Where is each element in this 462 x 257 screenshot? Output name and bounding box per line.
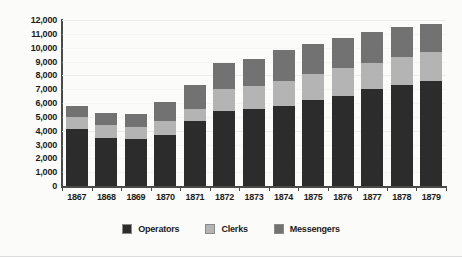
bar-segment-operators[interactable] xyxy=(391,85,413,186)
x-axis-tick xyxy=(269,186,270,191)
legend-item-messengers[interactable]: Messengers xyxy=(274,224,340,234)
x-axis-tick xyxy=(210,186,211,191)
bar-stack[interactable] xyxy=(154,20,176,186)
bar-stack[interactable] xyxy=(243,20,265,186)
bar-segment-operators[interactable] xyxy=(154,135,176,186)
bar-stack[interactable] xyxy=(361,20,383,186)
x-axis-tick-label: 1875 xyxy=(304,192,323,202)
x-axis-tick-label: 1874 xyxy=(274,192,293,202)
y-axis-labels: 01,0002,0003,0004,0005,0006,0007,0008,00… xyxy=(0,0,57,206)
bar-stack[interactable] xyxy=(332,20,354,186)
bar-stack[interactable] xyxy=(184,20,206,186)
bar-segment-clerks[interactable] xyxy=(361,63,383,89)
y-axis-tick-label: 6,000 xyxy=(35,98,57,108)
x-axis-tick-label: 1877 xyxy=(363,192,382,202)
y-axis-tick-label: 3,000 xyxy=(35,140,57,150)
x-axis-tick-label: 1869 xyxy=(126,192,145,202)
x-axis-tick xyxy=(151,186,152,191)
x-axis-tick xyxy=(298,186,299,191)
bar-segment-operators[interactable] xyxy=(125,139,147,186)
chart-container: 01,0002,0003,0004,0005,0006,0007,0008,00… xyxy=(0,0,462,257)
y-axis-tick-label: 2,000 xyxy=(35,153,57,163)
x-axis-tick xyxy=(239,186,240,191)
bar-segment-clerks[interactable] xyxy=(125,127,147,139)
x-axis-tick xyxy=(180,186,181,191)
bar-segment-messengers[interactable] xyxy=(184,85,206,109)
bar-segment-messengers[interactable] xyxy=(66,106,88,117)
legend-item-operators[interactable]: Operators xyxy=(122,224,179,234)
x-axis-tick-label: 1867 xyxy=(67,192,86,202)
bar-segment-messengers[interactable] xyxy=(213,63,235,89)
bar-stack[interactable] xyxy=(66,20,88,186)
bar-segment-clerks[interactable] xyxy=(66,117,88,129)
x-axis-tick xyxy=(62,186,63,191)
bar-segment-operators[interactable] xyxy=(213,111,235,186)
y-axis-tick-label: 5,000 xyxy=(35,112,57,122)
bar-segment-clerks[interactable] xyxy=(420,52,442,81)
y-axis-tick-label: 9,000 xyxy=(35,57,57,67)
bar-stack[interactable] xyxy=(125,20,147,186)
y-axis-tick-label: 4,000 xyxy=(35,126,57,136)
y-axis-tick-label: 8,000 xyxy=(35,70,57,80)
y-axis-tick-label: 0 xyxy=(52,181,57,191)
x-axis-tick-label: 1879 xyxy=(422,192,441,202)
bar-segment-messengers[interactable] xyxy=(361,32,383,62)
bar-segment-clerks[interactable] xyxy=(243,86,265,108)
bar-segment-messengers[interactable] xyxy=(302,44,324,74)
x-axis-tick xyxy=(446,186,447,191)
bar-segment-operators[interactable] xyxy=(243,109,265,186)
x-axis-tick xyxy=(92,186,93,191)
legend-item-clerks[interactable]: Clerks xyxy=(205,224,247,234)
legend-label: Clerks xyxy=(221,224,247,234)
bar-segment-messengers[interactable] xyxy=(154,102,176,121)
legend-swatch-icon xyxy=(274,224,284,234)
y-axis-tick-label: 11,000 xyxy=(31,29,57,39)
bar-segment-messengers[interactable] xyxy=(420,24,442,52)
bar-segment-operators[interactable] xyxy=(95,138,117,186)
bar-segment-clerks[interactable] xyxy=(95,125,117,137)
bar-segment-messengers[interactable] xyxy=(273,50,295,80)
bar-segment-clerks[interactable] xyxy=(184,109,206,121)
x-axis-tick xyxy=(121,186,122,191)
x-axis-tick-label: 1868 xyxy=(97,192,116,202)
x-axis-tick xyxy=(357,186,358,191)
bar-stack[interactable] xyxy=(273,20,295,186)
bar-stack[interactable] xyxy=(420,20,442,186)
y-axis-tick-label: 12,000 xyxy=(31,15,57,25)
x-axis-tick-label: 1873 xyxy=(245,192,264,202)
bar-segment-operators[interactable] xyxy=(420,81,442,186)
bar-stack[interactable] xyxy=(391,20,413,186)
bar-segment-operators[interactable] xyxy=(184,121,206,186)
bar-segment-clerks[interactable] xyxy=(391,57,413,85)
bar-segment-clerks[interactable] xyxy=(273,81,295,106)
bar-segment-operators[interactable] xyxy=(273,106,295,186)
bar-stack[interactable] xyxy=(95,20,117,186)
bar-segment-operators[interactable] xyxy=(332,96,354,186)
bar-segment-messengers[interactable] xyxy=(125,114,147,126)
bar-segment-clerks[interactable] xyxy=(154,121,176,135)
bar-segment-operators[interactable] xyxy=(361,89,383,186)
x-axis-tick-label: 1876 xyxy=(333,192,352,202)
x-axis-tick-label: 1871 xyxy=(186,192,205,202)
bar-segment-messengers[interactable] xyxy=(332,38,354,68)
y-axis-tick-label: 10,000 xyxy=(31,43,57,53)
bar-segment-messengers[interactable] xyxy=(391,27,413,57)
bar-segment-operators[interactable] xyxy=(66,129,88,186)
bar-segment-clerks[interactable] xyxy=(213,89,235,111)
legend-swatch-icon xyxy=(205,224,215,234)
x-axis-tick-label: 1878 xyxy=(392,192,411,202)
x-axis-tick xyxy=(328,186,329,191)
x-axis-tick xyxy=(387,186,388,191)
bar-stack[interactable] xyxy=(213,20,235,186)
x-axis-tick-label: 1872 xyxy=(215,192,234,202)
y-axis-tick-label: 1,000 xyxy=(35,167,57,177)
bar-segment-clerks[interactable] xyxy=(302,74,324,100)
bar-segment-messengers[interactable] xyxy=(95,113,117,125)
bar-segment-operators[interactable] xyxy=(302,100,324,186)
bar-series-group xyxy=(62,20,446,186)
bar-stack[interactable] xyxy=(302,20,324,186)
legend-swatch-icon xyxy=(122,224,132,234)
legend-label: Operators xyxy=(138,224,179,234)
bar-segment-clerks[interactable] xyxy=(332,68,354,96)
bar-segment-messengers[interactable] xyxy=(243,59,265,87)
